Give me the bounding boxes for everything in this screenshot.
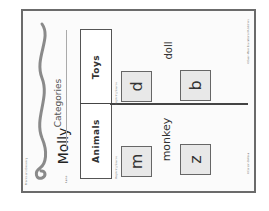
footer-left: ©Carson-Dellosa [247, 142, 250, 186]
category-divider [80, 103, 110, 104]
word-doll: doll [163, 31, 174, 71]
word-monkey: monkey [160, 114, 173, 166]
letter-m: m [127, 154, 146, 170]
name-label: Name [65, 174, 68, 186]
swirl-decoration [30, 18, 54, 186]
beginning-sounds-label-toys: Beginning Sounds [114, 86, 119, 100]
letter-d: d [127, 81, 146, 91]
student-name: Molly [55, 121, 71, 171]
column-divider-line [110, 103, 248, 105]
series-label: Phonics and Decoding [25, 150, 28, 194]
letter-box-b: b [180, 70, 211, 101]
name-line [66, 30, 67, 150]
swirl-icon [30, 18, 54, 186]
category-toys: Toys [80, 29, 112, 105]
letter-box-z: z [180, 144, 211, 175]
beginning-sounds-label-animals: Beginning Sounds [114, 160, 119, 174]
letter-box-m: m [121, 146, 152, 177]
footer-right: ©Evan-Moor Educational Publishers [247, 14, 250, 70]
letter-z: z [186, 155, 205, 163]
category-label-toys: Toys [91, 55, 101, 79]
letter-b: b [186, 80, 205, 90]
category-label-animals: Animals [91, 119, 101, 163]
letter-box-d: d [121, 71, 152, 102]
category-animals: Animals [80, 103, 112, 179]
